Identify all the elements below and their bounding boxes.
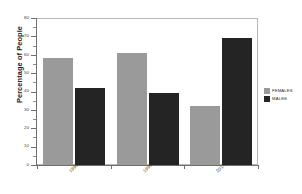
- bar-females-1998: [43, 58, 73, 165]
- y-tick-label: 10: [3, 144, 29, 148]
- legend-swatch-icon: [264, 96, 270, 102]
- bar-females-2014: [190, 106, 220, 165]
- y-tick: [31, 165, 36, 166]
- bar-males-1996: [149, 93, 179, 165]
- chart-legend: FEMALESMALES: [264, 87, 302, 103]
- y-tick: [31, 110, 36, 111]
- x-tick: [37, 165, 38, 169]
- y-tick-minor: [33, 46, 36, 47]
- y-tick-minor: [33, 27, 36, 28]
- y-tick: [31, 18, 36, 19]
- y-tick-minor: [33, 82, 36, 83]
- bar-chart: Percentage of People 01020304050607080 1…: [0, 0, 302, 194]
- y-tick: [31, 73, 36, 74]
- legend-swatch-icon: [264, 88, 270, 94]
- y-tick: [31, 92, 36, 93]
- y-tick-label: 50: [3, 71, 29, 75]
- y-tick-label: 40: [3, 89, 29, 93]
- y-tick: [31, 55, 36, 56]
- bars-layer: [37, 18, 258, 165]
- legend-label: MALES: [272, 96, 287, 101]
- legend-label: FEMALES: [272, 88, 293, 93]
- y-tick-label: 60: [3, 53, 29, 57]
- y-tick-minor: [33, 137, 36, 138]
- legend-item: FEMALES: [264, 87, 302, 94]
- bar-males-1998: [75, 88, 105, 165]
- y-tick-minor: [33, 119, 36, 120]
- x-tick: [258, 165, 259, 169]
- bar-females-1996: [117, 53, 147, 165]
- legend-item: MALES: [264, 95, 302, 102]
- y-tick-minor: [33, 156, 36, 157]
- bar-males-2014: [222, 38, 252, 165]
- y-axis-title: Percentage of People: [15, 10, 24, 120]
- y-tick-label: 0: [3, 163, 29, 167]
- y-tick-label: 20: [3, 126, 29, 130]
- y-tick: [31, 128, 36, 129]
- y-tick: [31, 36, 36, 37]
- x-tick: [184, 165, 185, 169]
- y-tick-minor: [33, 101, 36, 102]
- x-tick: [111, 165, 112, 169]
- y-tick-minor: [33, 64, 36, 65]
- y-tick-label: 70: [3, 34, 29, 38]
- y-tick-label: 80: [3, 16, 29, 20]
- y-tick-label: 30: [3, 108, 29, 112]
- y-tick: [31, 147, 36, 148]
